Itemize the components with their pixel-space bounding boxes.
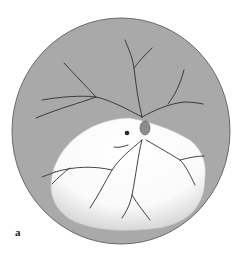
panel-label: a <box>15 226 21 238</box>
retinal-hole <box>125 131 130 136</box>
optic-disc <box>140 121 150 135</box>
fundus-illustration: a <box>0 0 242 260</box>
fundus-drawing <box>0 0 242 260</box>
